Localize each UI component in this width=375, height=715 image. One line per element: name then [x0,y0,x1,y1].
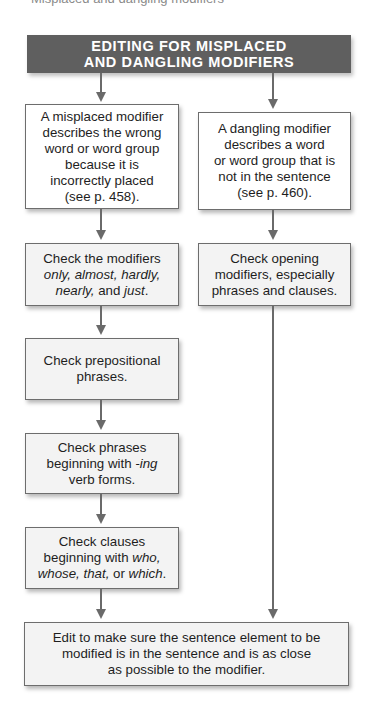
definition-line: A dangling modifier [218,121,331,137]
step-text: . [145,283,149,298]
step-text-italic: -ing [135,456,157,471]
connector-left-4 [100,494,102,515]
definition-line: describes a word [224,137,325,153]
definition-line: A misplaced modifier [41,109,164,125]
step-check-clauses: Check clauses beginning with who, whose,… [25,527,179,589]
step-text-italic: which [129,566,163,581]
connector-left-2 [100,306,102,326]
step-text-italic: just [124,283,145,298]
running-head: Misplaced and dangling modifiers [31,0,224,3]
connector-right-final [272,306,274,610]
step-text-italic: only, almost, hardly, [44,267,160,282]
step-text: verb forms. [69,472,136,488]
step-check-limiting-modifiers: Check the modifiers only, almost, hardly… [25,243,179,306]
definition-line: not in the sentence [218,169,330,185]
step-text: beginning with [44,550,133,565]
connector-header-right [272,73,274,100]
connector-right-1 [272,210,274,231]
connector-header-left [100,73,102,93]
definition-line: describes the wrong [43,125,162,141]
definition-line: (see p. 460). [237,185,312,201]
step-text: beginning with [47,456,136,471]
connector-left-final [100,589,102,610]
step-text-italic: nearly, [56,283,95,298]
arrow-down-icon [268,99,278,109]
step-text: Check clauses [59,534,145,550]
definition-line: (see p. 458). [65,189,140,205]
flowchart-title: EDITING FOR MISPLACED AND DANGLING MODIF… [27,35,351,73]
step-text: and [94,283,124,298]
arrow-down-icon [268,230,278,240]
arrow-down-icon [268,609,278,619]
step-check-opening-modifiers: Check opening modifiers, especially phra… [198,243,351,306]
arrow-down-icon [96,92,106,102]
title-line-1: EDITING FOR MISPLACED [27,38,351,55]
final-text-line: modified is in the sentence and is as cl… [62,646,311,662]
definition-line: because it is [65,157,139,173]
final-text-line: as possible to the modifier. [108,662,265,678]
step-text: or [109,566,128,581]
arrow-down-icon [96,325,106,335]
step-text: Check phrases [58,440,147,456]
step-text: Check opening [230,251,319,267]
step-check-prepositional: Check prepositional phrases. [25,338,179,400]
connector-left-3 [100,400,102,421]
final-text-line: Edit to make sure the sentence element t… [53,630,321,646]
final-action-box: Edit to make sure the sentence element t… [24,622,349,686]
arrow-down-icon [96,609,106,619]
definition-line: word or word group [45,141,160,157]
arrow-down-icon [96,230,106,240]
definition-line: incorrectly placed [50,173,153,189]
dangling-modifier-definition: A dangling modifier describes a word or … [198,112,351,210]
step-text: . [163,566,167,581]
step-text: phrases. [77,369,128,385]
step-text: Check the modifiers [43,251,161,267]
title-line-2: AND DANGLING MODIFIERS [27,54,351,71]
step-check-ing-phrases: Check phrases beginning with -ing verb f… [25,433,179,494]
step-text: Check prepositional [44,353,161,369]
step-text-italic: whose, that, [38,566,110,581]
arrow-down-icon [96,514,106,524]
step-text: modifiers, especially [215,267,335,283]
step-text: phrases and clauses. [212,283,338,299]
definition-line: or word group that is [214,153,335,169]
connector-left-1 [100,209,102,231]
arrow-down-icon [96,420,106,430]
step-text-italic: who, [132,550,160,565]
misplaced-modifier-definition: A misplaced modifier describes the wrong… [25,104,179,209]
